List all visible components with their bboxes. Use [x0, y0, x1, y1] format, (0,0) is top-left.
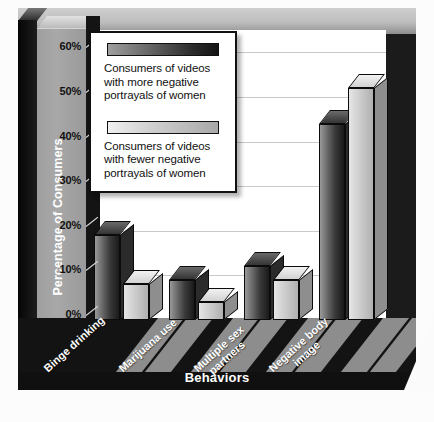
y-tick-label: 10% — [36, 264, 81, 275]
y-axis-title: Percentage of Consumers — [51, 132, 65, 302]
legend-line-1: Consumers of videos — [104, 140, 210, 152]
legend-line-1: Consumers of videos — [104, 62, 210, 74]
legend-line-2: with more negative — [104, 76, 199, 88]
legend: Consumers of videos with more negative p… — [89, 31, 237, 193]
bar-front-face — [198, 302, 224, 320]
y-tick-label: 40% — [36, 131, 81, 142]
bar — [94, 235, 120, 320]
bar — [244, 266, 270, 320]
legend-line-2: with fewer negative — [104, 153, 201, 165]
bar — [169, 280, 195, 320]
y-tick-label: 50% — [36, 86, 81, 97]
bar — [123, 284, 149, 320]
y-tick-label: 0% — [36, 309, 81, 320]
legend-line-3: portrayals of women — [104, 89, 206, 101]
bar-front-face — [94, 235, 120, 320]
y-tick-label: 30% — [36, 175, 81, 186]
legend-entry-fewer-negative: Consumers of videos with fewer negative … — [103, 121, 225, 181]
y-tick-label: 60% — [36, 41, 81, 52]
bar-side-face — [374, 77, 388, 320]
bar-chart-figure: Percentage of Consumers Behaviors 0%10%2… — [0, 0, 434, 422]
legend-swatch-fewer-negative — [107, 121, 219, 134]
bar-front-face — [273, 280, 299, 320]
y-tick-label: 20% — [36, 220, 81, 231]
legend-label-more-negative: Consumers of videos with more negative p… — [104, 62, 225, 103]
legend-label-fewer-negative: Consumers of videos with fewer negative … — [104, 140, 225, 181]
bar-front-face — [319, 124, 345, 320]
bar-front-face — [123, 284, 149, 320]
bar — [273, 280, 299, 320]
bar — [319, 124, 345, 320]
bar — [198, 302, 224, 320]
legend-line-3: portrayals of women — [104, 167, 206, 179]
legend-swatch-more-negative — [107, 43, 219, 56]
bar — [348, 88, 374, 320]
bar-front-face — [348, 88, 374, 320]
bar-front-face — [244, 266, 270, 320]
bar-front-face — [169, 280, 195, 320]
